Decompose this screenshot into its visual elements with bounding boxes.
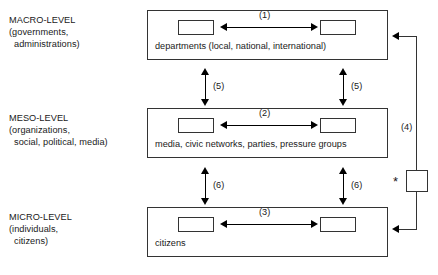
box-caption-meso: media, civic networks, parties, pressure… xyxy=(155,139,346,150)
horizontal-arrow-macro xyxy=(220,23,318,32)
connector-label-5-left: (5) xyxy=(213,81,224,92)
vertical-arrow-meso-micro-left xyxy=(201,167,210,205)
connector-label-2: (2) xyxy=(259,108,270,119)
arrow-shaft xyxy=(224,224,314,225)
level-box-micro: (3) citizens xyxy=(147,207,388,257)
arrowhead-down-icon xyxy=(339,99,347,106)
horizontal-arrow-meso xyxy=(220,121,318,130)
level-sub1-meso: (organizations, xyxy=(9,124,108,136)
vertical-arrow-macro-meso-left xyxy=(201,68,210,106)
figure-canvas: MACRO-LEVEL (governments, administration… xyxy=(0,0,438,275)
actor-node-meso-left xyxy=(178,118,214,133)
level-label-micro: MICRO-LEVEL (individuals, citizens) xyxy=(9,211,72,248)
feedback-arrowhead-top-icon xyxy=(392,32,399,40)
box-caption-micro: citizens xyxy=(155,238,186,249)
actor-node-macro-right xyxy=(320,20,356,35)
level-sub2-macro: administrations) xyxy=(9,38,80,50)
arrow-shaft xyxy=(205,171,206,201)
connector-label-1: (1) xyxy=(259,10,270,21)
actor-node-micro-right xyxy=(320,217,356,232)
connector-label-6-right: (6) xyxy=(351,180,362,191)
arrowhead-right-icon xyxy=(311,220,318,228)
arrowhead-right-icon xyxy=(311,23,318,31)
connector-label-5-right: (5) xyxy=(351,81,362,92)
vertical-arrow-macro-meso-right xyxy=(339,68,348,106)
feedback-stub-top xyxy=(398,36,417,37)
clipped-caption xyxy=(8,268,428,275)
connector-label-3: (3) xyxy=(259,207,270,218)
vertical-arrow-meso-micro-right xyxy=(339,167,348,205)
feedback-gate-box xyxy=(406,170,428,192)
arrowhead-right-icon xyxy=(311,121,318,129)
level-box-meso: (2) media, civic networks, parties, pres… xyxy=(147,108,388,158)
arrowhead-down-icon xyxy=(201,99,209,106)
arrow-shaft xyxy=(224,27,314,28)
arrow-shaft xyxy=(224,125,314,126)
arrowhead-down-icon xyxy=(201,198,209,205)
level-title-meso: MESO-LEVEL xyxy=(9,112,108,124)
actor-node-macro-left xyxy=(178,20,214,35)
level-title-micro: MICRO-LEVEL xyxy=(9,211,72,223)
actor-node-meso-right xyxy=(320,118,356,133)
asterisk-marker: * xyxy=(393,175,398,188)
feedback-stub-bottom xyxy=(398,229,417,230)
connector-label-6-left: (6) xyxy=(213,180,224,191)
level-label-meso: MESO-LEVEL (organizations, social, polit… xyxy=(9,112,108,149)
arrow-shaft xyxy=(205,72,206,102)
level-title-macro: MACRO-LEVEL xyxy=(9,14,80,26)
arrowhead-down-icon xyxy=(339,198,347,205)
level-sub1-micro: (individuals, xyxy=(9,223,72,235)
level-sub2-meso: social, political, media) xyxy=(9,136,108,148)
level-label-macro: MACRO-LEVEL (governments, administration… xyxy=(9,14,80,51)
arrow-shaft xyxy=(343,171,344,201)
feedback-line-upper xyxy=(416,36,417,170)
level-box-macro: (1) departments (local, national, intern… xyxy=(147,10,388,60)
box-caption-macro: departments (local, national, internatio… xyxy=(155,41,326,52)
level-sub2-micro: citizens) xyxy=(9,235,72,247)
feedback-line-lower xyxy=(416,192,417,230)
level-sub1-macro: (governments, xyxy=(9,26,80,38)
actor-node-micro-left xyxy=(178,217,214,232)
arrow-shaft xyxy=(343,72,344,102)
connector-label-4: (4) xyxy=(401,122,412,133)
horizontal-arrow-micro xyxy=(220,220,318,229)
feedback-arrowhead-bottom-icon xyxy=(392,225,399,233)
